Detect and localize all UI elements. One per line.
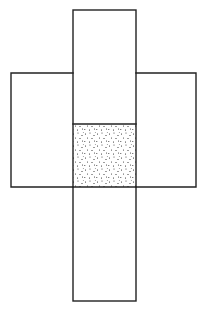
cube-net-diagram bbox=[0, 0, 205, 310]
center-face-shaded bbox=[73, 124, 136, 187]
right-face-outline bbox=[136, 73, 196, 187]
left-face-outline bbox=[11, 73, 73, 187]
